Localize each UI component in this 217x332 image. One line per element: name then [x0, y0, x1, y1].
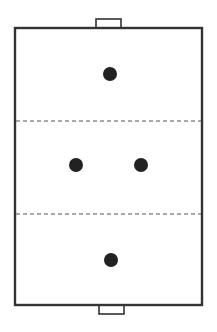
player-bottom-marker	[104, 253, 118, 267]
player-middle-left-marker	[69, 158, 83, 172]
field-diagram	[0, 0, 217, 332]
player-top-marker	[103, 67, 117, 81]
player-middle-right-marker	[134, 158, 148, 172]
bottom-goal	[99, 305, 124, 314]
top-goal	[96, 19, 121, 28]
